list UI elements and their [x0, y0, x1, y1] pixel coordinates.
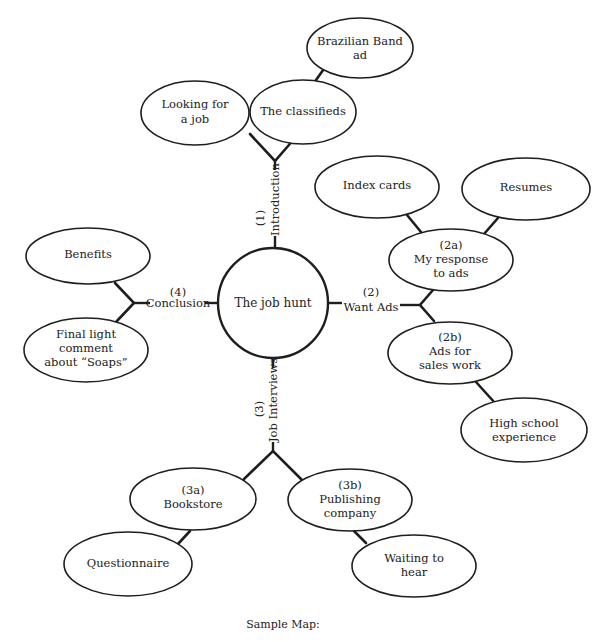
svg-text:High school: High school	[489, 416, 559, 430]
node-brazilian-band: Brazilian Band ad	[307, 18, 413, 78]
node-publishing: (3b) Publishing company	[288, 469, 412, 531]
svg-text:sales work: sales work	[419, 358, 482, 372]
svg-text:(2b): (2b)	[438, 330, 462, 344]
figure-caption: Sample Map:	[246, 618, 320, 631]
svg-text:Brazilian Band: Brazilian Band	[317, 34, 404, 48]
svg-text:about “Soaps”: about “Soaps”	[44, 355, 128, 369]
branch-wantads: (2) Want Ads	[344, 285, 399, 314]
svg-text:a job: a job	[181, 112, 209, 126]
svg-text:Publishing: Publishing	[319, 492, 381, 506]
svg-text:(3b): (3b)	[338, 478, 362, 492]
node-bookstore: (3a) Bookstore	[130, 468, 256, 530]
node-questionnaire: Questionnaire	[64, 532, 192, 596]
node-benefits: Benefits	[26, 228, 150, 284]
node-high-school: High school experience	[461, 398, 587, 462]
svg-text:ad: ad	[353, 48, 368, 62]
svg-text:Benefits: Benefits	[64, 247, 112, 261]
edge-response-indexcards	[407, 215, 421, 232]
svg-text:Looking for: Looking for	[161, 97, 229, 111]
node-response-to-ads: (2a) My response to ads	[389, 229, 513, 291]
branch-wantads-number: (2)	[363, 285, 379, 299]
branch-interviews-number: (3)	[252, 401, 266, 417]
branch-interviews-label: Job Interviews	[266, 358, 280, 443]
svg-text:hear: hear	[401, 565, 428, 579]
branch-wantads-label: Want Ads	[344, 300, 399, 314]
svg-text:Resumes: Resumes	[500, 180, 552, 194]
hub-label: The job hunt	[234, 296, 311, 310]
branch-introduction: Introduction (1)	[253, 163, 282, 236]
node-looking-for-job: Looking for a job	[141, 81, 249, 145]
svg-text:experience: experience	[492, 430, 556, 444]
branch-conclusion: (4) Conclusion	[146, 285, 211, 310]
svg-text:company: company	[324, 506, 377, 520]
svg-text:(3a): (3a)	[181, 483, 204, 497]
svg-text:Ads for: Ads for	[428, 344, 471, 358]
svg-text:Waiting to: Waiting to	[384, 551, 444, 565]
branch-introduction-number: (1)	[253, 210, 267, 226]
branch-conclusion-label: Conclusion	[146, 296, 211, 310]
mind-map: The job hunt Introduction (1) (2) Want A…	[0, 0, 614, 642]
svg-text:comment: comment	[59, 341, 113, 355]
svg-text:Index cards: Index cards	[343, 178, 411, 192]
node-classifieds: The classifieds	[250, 80, 356, 144]
node-waiting: Waiting to hear	[352, 535, 476, 597]
edge-sales-highschool	[476, 382, 495, 403]
node-final-comment: Final light comment about “Soaps”	[24, 318, 148, 382]
svg-text:Questionnaire: Questionnaire	[87, 556, 170, 570]
branch-introduction-label: Introduction	[268, 163, 282, 236]
svg-text:Final light: Final light	[56, 327, 116, 341]
node-resumes: Resumes	[462, 158, 590, 220]
node-index-cards: Index cards	[315, 156, 439, 218]
svg-text:My response: My response	[414, 252, 489, 266]
edge-publishing-waiting	[354, 531, 366, 543]
hub-node: The job hunt	[218, 248, 328, 358]
svg-text:The classifieds: The classifieds	[260, 104, 346, 118]
node-ads-sales-work: (2b) Ads for sales work	[388, 322, 512, 384]
edge-wantads-children	[420, 290, 434, 321]
edge-bookstore-questionnaire	[178, 531, 190, 544]
branch-interviews: Job Interviews (3)	[252, 358, 280, 443]
svg-text:Bookstore: Bookstore	[163, 497, 222, 511]
svg-text:to ads: to ads	[433, 266, 468, 280]
edge-response-resumes	[484, 218, 498, 234]
edge-conclusion-children	[115, 283, 134, 322]
edge-interviews-children	[244, 451, 302, 480]
svg-text:(2a): (2a)	[439, 238, 462, 252]
